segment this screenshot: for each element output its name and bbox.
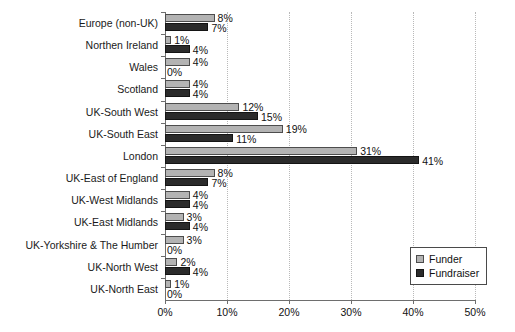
bar-funder — [165, 258, 177, 266]
category-label: Europe (non-UK) — [79, 18, 158, 29]
legend-swatch-fundraiser-icon — [416, 269, 424, 277]
legend-label-funder: Funder — [429, 253, 462, 265]
bar-value-funder: 31% — [360, 146, 381, 157]
bar-funder — [165, 14, 215, 22]
x-tick-label-10: 10% — [216, 306, 237, 318]
bar-group: UK-South West12%15% — [165, 103, 475, 125]
bar-fundraiser — [165, 89, 190, 97]
bar-funder — [165, 125, 283, 133]
bar-funder — [165, 236, 184, 244]
legend-item-fundraiser: Fundraiser — [416, 266, 486, 280]
bar-funder — [165, 58, 190, 66]
bar-funder — [165, 103, 239, 111]
category-label: UK-East Midlands — [74, 217, 158, 228]
bar-value-funder: 4% — [193, 57, 208, 68]
bar-value-fundraiser: 0% — [167, 67, 182, 78]
bar-group: UK-East Midlands3%4% — [165, 213, 475, 235]
bar-group: UK-West Midlands4%4% — [165, 191, 475, 213]
x-tick-50 — [475, 300, 476, 304]
bar-fundraiser — [165, 200, 190, 208]
bar-value-fundraiser: 7% — [211, 178, 226, 189]
category-label: UK-South East — [89, 129, 158, 140]
x-tick-10 — [227, 300, 228, 304]
category-label: UK-South West — [86, 107, 158, 118]
bar-funder — [165, 191, 190, 199]
bar-group: Europe (non-UK)8%7% — [165, 14, 475, 36]
x-tick-label-0: 0% — [157, 306, 172, 318]
bar-group: Northen Ireland1%4% — [165, 36, 475, 58]
bar-value-fundraiser: 4% — [193, 267, 208, 278]
bar-fundraiser — [165, 222, 190, 230]
bar-group: Scotland4%4% — [165, 80, 475, 102]
category-label: London — [123, 151, 158, 162]
bar-fundraiser — [165, 23, 208, 31]
bar-funder — [165, 80, 190, 88]
category-label: Scotland — [117, 84, 158, 95]
x-tick-label-30: 30% — [340, 306, 361, 318]
y-tick-0 — [161, 12, 165, 13]
x-tick-label-40: 40% — [402, 306, 423, 318]
bar-fundraiser — [165, 134, 233, 142]
category-label: UK-North East — [90, 284, 158, 295]
bar-value-fundraiser: 15% — [261, 112, 282, 123]
bar-funder — [165, 36, 171, 44]
bar-fundraiser — [165, 45, 190, 53]
bar-value-fundraiser: 7% — [211, 23, 226, 34]
chart-figure: Europe (non-UK)8%7%Northen Ireland1%4%Wa… — [0, 0, 515, 332]
category-label: Northen Ireland — [86, 40, 158, 51]
bar-value-funder: 1% — [174, 35, 189, 46]
bar-group: UK-East of England8%7% — [165, 169, 475, 191]
bar-value-fundraiser: 4% — [193, 89, 208, 100]
bar-value-fundraiser: 0% — [167, 245, 182, 256]
chart-legend: Funder Fundraiser — [410, 247, 487, 285]
bar-value-fundraiser: 4% — [193, 200, 208, 211]
legend-swatch-funder-icon — [416, 255, 424, 263]
bar-funder — [165, 280, 171, 288]
bar-group: Wales4%0% — [165, 58, 475, 80]
bar-fundraiser — [165, 178, 208, 186]
bar-value-fundraiser: 0% — [167, 289, 182, 300]
x-tick-label-20: 20% — [278, 306, 299, 318]
category-label: Wales — [129, 62, 158, 73]
bar-value-fundraiser: 4% — [193, 45, 208, 56]
bar-fundraiser — [165, 156, 419, 164]
bar-value-funder: 19% — [286, 124, 307, 135]
x-tick-30 — [351, 300, 352, 304]
bar-funder — [165, 147, 357, 155]
category-label: UK-West Midlands — [71, 195, 158, 206]
legend-item-funder: Funder — [416, 252, 486, 266]
category-label: UK-North West — [88, 262, 158, 273]
bar-value-funder: 3% — [187, 235, 202, 246]
bar-group: UK-South East19%11% — [165, 125, 475, 147]
bar-funder — [165, 169, 215, 177]
category-label: UK-Yorkshire & The Humber — [26, 240, 158, 251]
bar-value-fundraiser: 11% — [236, 134, 256, 145]
bar-fundraiser — [165, 112, 258, 120]
bar-value-fundraiser: 4% — [193, 222, 208, 233]
legend-label-fundraiser: Fundraiser — [429, 267, 479, 279]
bar-group: London31%41% — [165, 147, 475, 169]
category-label: UK-East of England — [66, 173, 158, 184]
x-tick-20 — [289, 300, 290, 304]
x-tick-40 — [413, 300, 414, 304]
x-tick-0 — [165, 300, 166, 304]
bar-fundraiser — [165, 267, 190, 275]
bar-value-fundraiser: 41% — [422, 156, 443, 167]
bar-funder — [165, 213, 184, 221]
x-tick-label-50: 50% — [464, 306, 485, 318]
